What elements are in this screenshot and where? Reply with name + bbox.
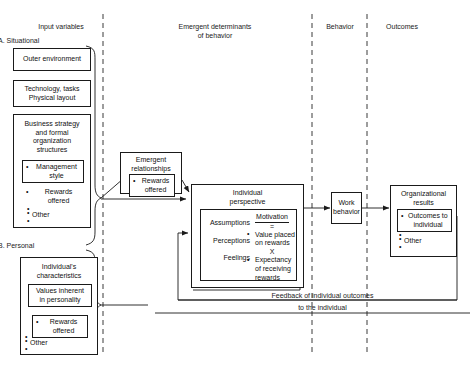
perspective-title-line2: perspective [230, 198, 266, 207]
box-individual-characteristics[interactable]: Individual's characteristics Values inhe… [20, 257, 98, 355]
section-label-personal: B. Personal [0, 241, 34, 250]
box-values-inherent[interactable]: Values inherent in personality [28, 284, 92, 307]
box-business-strategy[interactable]: Business strategy and formal organizatio… [13, 114, 91, 228]
diagram-canvas: Input variables Emergent determinants of… [0, 0, 470, 369]
org-results-title-line1: Organizational [401, 190, 446, 199]
motivation-term1-line1: Value placed [247, 231, 297, 240]
org-other-bullet-mid: • [399, 235, 401, 244]
box-technology-tasks[interactable]: Technology, tasks Physical layout [13, 80, 91, 107]
box-outer-environment[interactable]: Outer environment [13, 48, 91, 71]
individual-other-bullet-mid: • [25, 337, 27, 346]
box-outcomes-to-individual[interactable]: Outcomes to individual [397, 209, 452, 232]
business-title-line3: organization [33, 137, 71, 146]
motivation-heading-text: Motivation [255, 213, 289, 223]
values-line1: Values inherent [32, 287, 88, 296]
business-other-dot-bottom: • [27, 219, 50, 223]
box-motivation-detail[interactable]: Assumptions Perceptions Feelings Motivat… [200, 209, 297, 281]
box-emergent-relationships[interactable]: Emergent relationships Rewards offered [120, 152, 182, 194]
section-label-situational: A. Situational [0, 36, 39, 45]
org-other-label: Other [399, 237, 422, 246]
business-other-bullet-mid: • [27, 209, 29, 218]
feedback-caption-line1: Feedback of individual outcomes [240, 291, 405, 300]
term-perceptions: Perceptions [198, 237, 250, 246]
management-style-line2: style [26, 172, 80, 181]
individual-other-group: • Other • [25, 335, 48, 351]
emergent-rewards-line2: offered [133, 186, 171, 195]
motivation-term2-line2: of receiving [247, 265, 297, 274]
business-title-line2: and formal [35, 129, 68, 138]
individual-rewards-line2: offered [36, 327, 84, 336]
business-title-line1: Business strategy [24, 120, 79, 129]
box-organizational-results[interactable]: Organizational results Outcomes to indiv… [390, 185, 457, 257]
outcomes-line2: individual [401, 221, 448, 230]
management-style-line1: Management [26, 163, 80, 172]
individual-other-dot-bottom: • [25, 347, 48, 351]
emergent-title-line1: Emergent [136, 156, 166, 165]
term-feelings: Feelings [198, 254, 250, 263]
org-other-dot-bottom: • [399, 245, 422, 249]
header-behavior: Behavior [316, 22, 364, 31]
motivation-term2-line3: rewards [247, 274, 297, 283]
individual-other-label: Other [25, 339, 48, 348]
work-behavior-line2: behavior [333, 208, 360, 217]
business-rewards-offered: Rewards offered [26, 188, 84, 205]
arrow-emergent-to-perspective [182, 180, 189, 192]
box-management-style[interactable]: Management style [22, 160, 84, 183]
business-rewards-line1: Rewards [26, 188, 84, 197]
box-work-behavior[interactable]: Work behavior [331, 192, 362, 224]
emergent-rewards-line1: Rewards [133, 177, 171, 186]
outcomes-line1: Outcomes to [401, 212, 448, 221]
org-other-group: • Other • [399, 233, 422, 249]
individual-rewards-line1: Rewards [36, 318, 84, 327]
motivation-block: Motivation = Value placed on rewards X E… [247, 213, 297, 282]
term-assumptions: Assumptions [198, 219, 250, 228]
box-individual-perspective[interactable]: Individual perspective Assumptions Perce… [191, 184, 304, 288]
header-input-variables: Input variables [18, 22, 104, 31]
box-emergent-rewards[interactable]: Rewards offered [129, 174, 175, 197]
motivation-equals: = [247, 223, 297, 231]
business-rewards-line2: offered [26, 197, 84, 206]
business-title-line4: structures [37, 146, 68, 155]
perspective-title-line1: Individual [233, 189, 263, 198]
business-other-group: • Other • [27, 207, 50, 223]
work-behavior-line1: Work [338, 199, 354, 208]
motivation-heading: Motivation [247, 213, 297, 223]
header-outcomes: Outcomes [372, 22, 432, 31]
motivation-term2-line1: Expectancy [247, 256, 297, 265]
motivation-term1-line2: on rewards [247, 239, 297, 248]
perspective-left-terms: Assumptions Perceptions Feelings [198, 219, 250, 263]
header-emergent-line1: Emergent determinants [140, 22, 290, 31]
individual-title-line2: characteristics [37, 272, 82, 281]
org-results-title-line2: results [413, 199, 434, 208]
emergent-title-line2: relationships [131, 165, 170, 174]
outer-environment-label: Outer environment [23, 55, 81, 64]
technology-label-line1: Technology, tasks [24, 85, 79, 94]
values-line2: in personality [32, 296, 88, 305]
motivation-operator: X [247, 248, 297, 257]
header-emergent-line2: of behavior [140, 31, 290, 40]
header-emergent-determinants: Emergent determinants of behavior [140, 22, 290, 40]
business-other-label: Other [27, 211, 50, 220]
feedback-caption-line2: to the individual [240, 303, 405, 312]
technology-label-line2: Physical layout [29, 94, 76, 103]
individual-title-line1: Individual's [42, 263, 76, 272]
